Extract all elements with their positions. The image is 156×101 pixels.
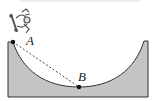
point-b-label: B <box>78 69 86 84</box>
point-a-marker <box>11 40 15 44</box>
point-a-label: A <box>25 33 34 48</box>
point-b-marker <box>77 85 81 89</box>
half-pipe-figure: A B <box>0 0 156 101</box>
cropped-top-marks <box>20 0 140 2</box>
skateboarder-icon <box>10 9 30 33</box>
